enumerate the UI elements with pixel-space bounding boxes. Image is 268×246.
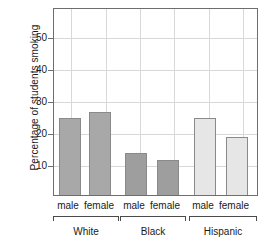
- y-tick-label-10: 10: [7, 161, 47, 171]
- bar-black-male: [125, 153, 147, 196]
- gridline-y-50: [54, 38, 257, 39]
- plot-area: [53, 8, 258, 196]
- bar-hispanic-female: [226, 137, 248, 196]
- y-tick-label-50: 50: [7, 33, 47, 43]
- bar-hispanic-male: [194, 118, 216, 196]
- gridline-y-20: [54, 134, 257, 135]
- y-tick-label-30: 30: [7, 97, 47, 107]
- group-label-hispanic: Hispanic: [189, 226, 257, 238]
- x-label-black-female: female: [142, 200, 188, 212]
- group-label-black: Black: [120, 226, 186, 238]
- bar-white-male: [59, 118, 81, 196]
- group-bracket-line-black: [120, 216, 186, 217]
- bar-chart: Percentage of students smoking 50 40 30 …: [0, 0, 268, 246]
- bar-white-female: [89, 112, 111, 196]
- x-label-hispanic-female: female: [211, 200, 257, 212]
- group-label-white: White: [53, 226, 119, 238]
- y-tick-label-40: 40: [7, 65, 47, 75]
- group-bracket-line-white: [53, 216, 119, 217]
- bar-black-female: [157, 160, 179, 196]
- y-tick-label-20: 20: [7, 129, 47, 139]
- gridline-y-40: [54, 70, 257, 71]
- gridline-y-30: [54, 102, 257, 103]
- group-bracket-line-hispanic: [189, 216, 257, 217]
